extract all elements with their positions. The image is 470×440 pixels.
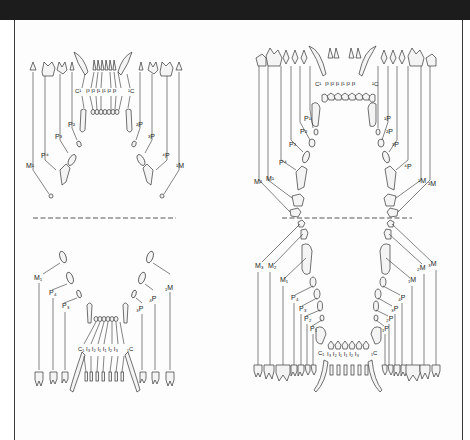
label-cat-M1-lower-right: ₁M <box>165 284 173 291</box>
label-dog-M3-lower-right: ₃M <box>428 260 437 267</box>
dog-lower-occlusal <box>262 220 432 349</box>
label-dog-lower-C-right: ₁C <box>371 350 378 356</box>
label-dog-P1-lower-left: P₁ <box>310 325 318 332</box>
label-cat-P2-upper-right: ²P <box>136 121 143 128</box>
dog-upper-occlusal <box>259 93 430 217</box>
label-dog-upper-C-right: ¹C <box>372 81 379 87</box>
label-dog-P4-lower-right: ₄P <box>398 294 406 301</box>
label-dog-M1-upper-left: M¹ <box>266 175 275 182</box>
cat-upper-occlusal <box>33 96 179 198</box>
label-dog-P2-upper-right: ²P <box>386 128 393 135</box>
label-dog-P2-lower-left: P₂ <box>304 315 312 322</box>
label-cat-upper-C-left: C¹ <box>75 88 81 94</box>
label-cat-M1-upper-left: M¹ <box>26 162 35 169</box>
label-dog-M2-upper-right: ²M <box>428 180 436 187</box>
label-dog-M1-lower-left: M₁ <box>280 276 289 283</box>
dog-upper-jaw: C¹ I³ I² I¹ I¹ I² I³ ¹C <box>254 46 436 217</box>
label-dog-M1-lower-right: ₁M <box>408 276 416 283</box>
label-dog-P4-upper-right: ⁴P <box>404 163 412 170</box>
label-cat-lower-incisors: I₃ I₂ I₁ I₁ I₂ I₃ <box>86 346 118 352</box>
label-dog-upper-C-left: C¹ <box>315 81 321 87</box>
label-dog-M2-lower-right: ₂M <box>417 264 426 271</box>
label-cat-P3-lower-left: P₃ <box>62 302 70 309</box>
label-cat-P4-lower-left: P₄ <box>49 289 57 296</box>
label-cat-lower-C-left: C₁ <box>78 346 84 352</box>
label-cat-P2-upper-left: P² <box>68 121 76 128</box>
cat-lower-lateral-teeth <box>35 352 174 392</box>
dog-lower-jaw: M₃ M₂ M₁ P₄ P₃ P₂ P₁ ₃M ₂M ₁M ₄P ₃P ₂P ₁… <box>254 220 440 392</box>
cat-upper-lateral-teeth-right <box>118 52 182 76</box>
label-cat-upper-C-right: ¹C <box>128 88 135 94</box>
cat-lower-jaw: M₁ P₄ P₃ ₁M ₄P ₃P C₁ I₃ I₂ I₁ I₁ I₂ I₃ ₁… <box>34 250 174 392</box>
label-dog-M3-lower-left: M₃ <box>255 262 264 269</box>
label-dog-P3-upper-right: ³P <box>392 141 399 148</box>
label-dog-M2-upper-left: M² <box>254 178 263 185</box>
label-dog-P4-upper-left: P⁴ <box>279 159 287 166</box>
label-cat-upper-incisors: I³ I² I¹ I¹ I² I³ <box>86 88 116 94</box>
label-dog-P2-upper-left: P² <box>300 128 308 135</box>
label-dog-P3-lower-left: P₃ <box>299 305 307 312</box>
label-cat-P3-upper-right: ³P <box>148 133 155 140</box>
dog-upper-lateral-teeth <box>256 46 436 76</box>
cat-upper-lateral-teeth-left <box>30 52 88 76</box>
cat-upper-incisors <box>93 60 116 70</box>
dog-lower-lateral-teeth <box>254 360 440 392</box>
label-cat-M1-lower-left: M₁ <box>34 274 43 281</box>
label-dog-lower-C-left: C₁ <box>318 350 324 356</box>
label-cat-P4-upper-left: P⁴ <box>41 152 49 159</box>
label-dog-P1-upper-left: P¹ <box>304 115 312 122</box>
label-cat-P3-lower-right: ₃P <box>136 305 144 312</box>
label-dog-P1-lower-right: ₁P <box>382 325 389 332</box>
label-dog-P4-lower-left: P₄ <box>291 294 299 301</box>
label-cat-P3-upper-left: P³ <box>55 133 63 140</box>
label-cat-M1-upper-right: ¹M <box>176 162 184 169</box>
label-cat-P4-lower-right: ₄P <box>149 295 157 302</box>
label-dog-P2-lower-right: ₂P <box>386 315 394 322</box>
label-dog-lower-incisors: I₃ I₂ I₁ I₁ I₂ I₃ <box>327 351 359 357</box>
label-dog-P3-upper-left: P³ <box>289 141 297 148</box>
label-dog-P3-lower-right: ₃P <box>391 305 399 312</box>
label-dog-P1-upper-right: ¹P <box>384 115 391 122</box>
cat-upper-leader-lines <box>33 72 179 170</box>
label-cat-P4-upper-right: ⁴P <box>162 152 170 159</box>
label-dog-M2-lower-left: M₂ <box>268 262 277 269</box>
label-cat-lower-C-right: ₁C <box>127 346 134 352</box>
label-dog-M1-upper-right: ¹M <box>418 177 426 184</box>
label-dog-upper-incisors: I³ I² I¹ I¹ I² I³ <box>325 81 355 87</box>
cat-upper-jaw: C¹ I³ I² I¹ I¹ I² I³ ¹C <box>26 52 184 198</box>
